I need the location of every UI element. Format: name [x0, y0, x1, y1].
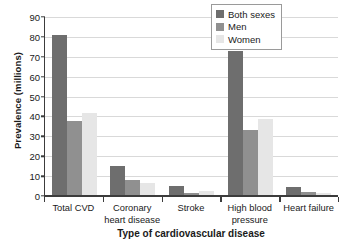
x-axis-tick-label-line: Heart failure	[272, 203, 346, 215]
legend-swatch-icon	[216, 10, 224, 18]
x-axis-tick-label-line: heart disease	[95, 215, 169, 227]
legend-item: Both sexes	[216, 8, 275, 21]
legend-label: Men	[228, 21, 246, 32]
x-axis-tick-mark	[162, 197, 163, 202]
x-axis-tick-mark	[279, 197, 280, 202]
bar	[52, 35, 67, 196]
bar-group	[104, 17, 163, 196]
bar	[228, 51, 243, 196]
bar-group	[45, 17, 104, 196]
bar-chart-figure: Prevalence (millions) 010203040506070809…	[0, 0, 350, 246]
x-axis-title: Type of cardiovascular disease	[44, 228, 338, 239]
legend-label: Women	[228, 34, 261, 45]
bar-group	[279, 17, 338, 196]
legend: Both sexesMenWomen	[211, 4, 282, 50]
x-axis-tick-mark	[44, 197, 45, 202]
x-axis-tick-label-line: pressure	[213, 215, 287, 227]
bar	[110, 166, 125, 196]
legend-item: Women	[216, 33, 275, 46]
x-axis-tick-mark	[338, 197, 339, 202]
x-axis-tick-mark	[103, 197, 104, 202]
plot-area: 0102030405060708090	[44, 17, 338, 196]
bar	[243, 130, 258, 196]
bar	[258, 119, 273, 196]
bar	[82, 113, 97, 196]
x-axis-tick-label: Heart failure	[272, 203, 346, 215]
y-axis-title: Prevalence (millions)	[12, 26, 23, 176]
legend-item: Men	[216, 21, 275, 34]
bar-groups	[45, 17, 338, 196]
legend-swatch-icon	[216, 35, 224, 43]
legend-label: Both sexes	[228, 9, 275, 20]
x-axis-tick-mark	[220, 197, 221, 202]
bar	[67, 121, 82, 196]
x-axis-line	[44, 195, 338, 197]
legend-swatch-icon	[216, 23, 224, 31]
